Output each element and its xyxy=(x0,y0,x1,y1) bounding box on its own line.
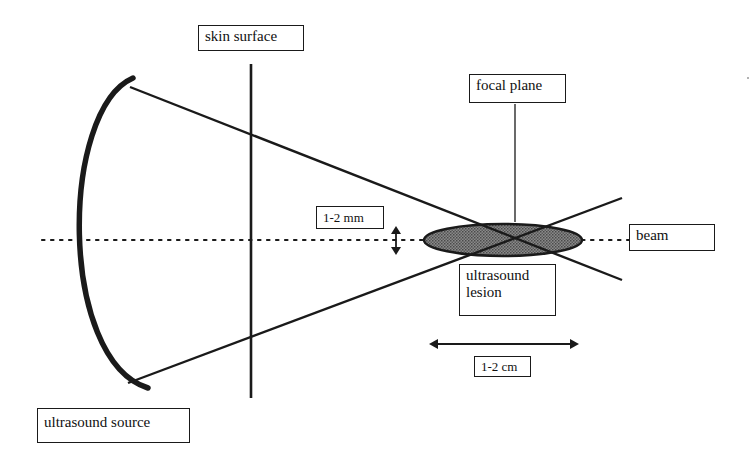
beam-edge-upper xyxy=(130,87,622,280)
ultrasound-lesion-label-line1: ultrasound xyxy=(466,267,549,284)
beam-label: beam xyxy=(629,224,715,251)
lesion-length-label: 1-2 cm xyxy=(474,356,531,377)
ultrasound-source-transducer xyxy=(79,78,148,388)
focal-plane-label: focal plane xyxy=(469,74,566,103)
ultrasound-lesion-label: ultrasound lesion xyxy=(459,264,556,316)
scan-speck xyxy=(747,77,749,79)
lesion-length-arrow-icon xyxy=(429,339,579,349)
lesion-width-label: 1-2 mm xyxy=(316,206,384,229)
ultrasound-lesion-ellipse xyxy=(424,224,582,256)
ultrasound-source-label: ultrasound source xyxy=(37,408,190,443)
ultrasound-lesion-label-line2: lesion xyxy=(466,284,549,301)
ultrasound-focus-diagram: skin surface focal plane 1-2 mm beam ult… xyxy=(0,0,754,468)
skin-surface-label: skin surface xyxy=(198,25,304,51)
